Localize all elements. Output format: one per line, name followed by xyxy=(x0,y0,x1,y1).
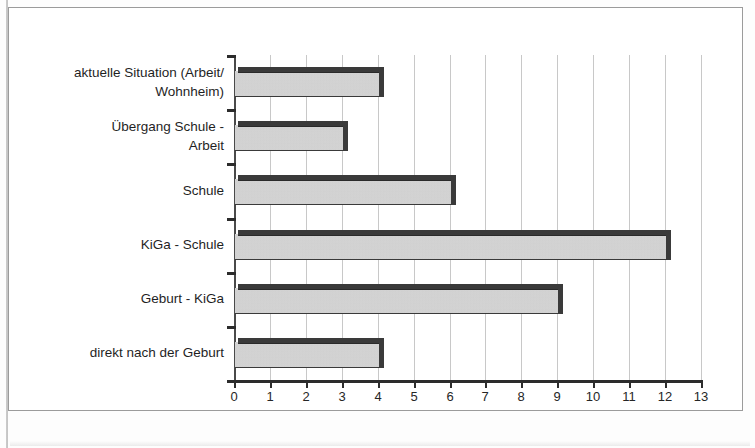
x-axis-tick-3 xyxy=(342,380,344,388)
gridline-x-7 xyxy=(485,55,486,380)
category-label-line: Wohnheim) xyxy=(2,82,224,101)
x-axis-tick-8 xyxy=(521,380,523,388)
category-label-4: Geburt - KiGa xyxy=(2,289,224,308)
gridline-x-8 xyxy=(521,55,522,380)
y-axis-tick xyxy=(227,272,236,275)
bar-right-face xyxy=(451,175,456,205)
x-axis-line xyxy=(233,380,703,383)
bar-0 xyxy=(235,71,379,97)
bar-right-face xyxy=(379,67,384,97)
x-axis-tick-7 xyxy=(485,380,487,388)
x-axis-tick-13 xyxy=(701,380,703,388)
category-label-5: direkt nach der Geburt xyxy=(2,343,224,362)
horizontal-bar-chart: 012345678910111213aktuelle Situation (Ar… xyxy=(9,8,744,412)
x-axis-tick-label: 1 xyxy=(256,389,284,404)
x-axis-tick-4 xyxy=(378,380,380,388)
x-axis-tick-9 xyxy=(557,380,559,388)
bar-top-face xyxy=(238,284,561,290)
bar-4 xyxy=(235,288,558,314)
y-axis-tick xyxy=(227,109,236,112)
x-axis-tick-label: 6 xyxy=(436,389,464,404)
bar-top-face xyxy=(238,67,382,73)
bar-right-face xyxy=(343,121,348,151)
gridline-x-4 xyxy=(378,55,379,380)
x-axis-tick-5 xyxy=(414,380,416,388)
x-axis-tick-label: 0 xyxy=(220,389,248,404)
x-axis-tick-12 xyxy=(665,380,667,388)
category-label-3: KiGa - Schule xyxy=(2,235,224,254)
gridline-x-11 xyxy=(629,55,630,380)
bar-3 xyxy=(235,234,666,260)
x-axis-tick-label: 2 xyxy=(292,389,320,404)
y-axis-tick xyxy=(227,326,236,329)
category-label-line: Übergang Schule - xyxy=(2,117,224,136)
x-axis-tick-label: 4 xyxy=(364,389,392,404)
bar-right-face xyxy=(666,230,671,260)
x-axis-tick-11 xyxy=(629,380,631,388)
y-axis-tick xyxy=(227,55,236,58)
bar-5 xyxy=(235,342,379,368)
bar-1 xyxy=(235,125,343,151)
bar-2 xyxy=(235,179,451,205)
bar-group xyxy=(235,230,671,260)
gridline-x-6 xyxy=(450,55,451,380)
bar-group xyxy=(235,338,384,368)
category-label-line: Arbeit xyxy=(2,136,224,155)
category-label-line: direkt nach der Geburt xyxy=(2,343,224,362)
x-axis-tick-label: 8 xyxy=(507,389,535,404)
x-axis-tick-6 xyxy=(450,380,452,388)
gridline-x-13 xyxy=(701,55,702,380)
category-label-line: aktuelle Situation (Arbeit/ xyxy=(2,63,224,82)
x-axis-tick-label: 3 xyxy=(328,389,356,404)
category-label-1: Übergang Schule -Arbeit xyxy=(2,117,224,155)
x-axis-tick-label: 13 xyxy=(687,389,715,404)
gridline-x-5 xyxy=(414,55,415,380)
category-label-line: KiGa - Schule xyxy=(2,235,224,254)
x-axis-tick-10 xyxy=(593,380,595,388)
gridline-x-2 xyxy=(306,55,307,380)
scanned-page: 012345678910111213aktuelle Situation (Ar… xyxy=(0,0,755,448)
category-label-0: aktuelle Situation (Arbeit/Wohnheim) xyxy=(2,63,224,101)
x-axis-tick-label: 9 xyxy=(543,389,571,404)
bar-top-face xyxy=(238,338,382,344)
y-axis-tick xyxy=(227,163,236,166)
gridline-x-12 xyxy=(665,55,666,380)
bar-top-face xyxy=(238,121,346,127)
plot-area xyxy=(234,55,701,380)
category-label-line: Schule xyxy=(2,181,224,200)
gridline-x-1 xyxy=(270,55,271,380)
x-axis-tick-label: 5 xyxy=(400,389,428,404)
y-axis-tick xyxy=(227,218,236,221)
x-axis-tick-label: 11 xyxy=(615,389,643,404)
bar-group xyxy=(235,284,563,314)
bar-top-face xyxy=(238,230,669,236)
category-label-line: Geburt - KiGa xyxy=(2,289,224,308)
gridline-x-9 xyxy=(557,55,558,380)
bar-top-face xyxy=(238,175,454,181)
x-axis-tick-label: 7 xyxy=(471,389,499,404)
x-axis-tick-label: 10 xyxy=(579,389,607,404)
x-axis-tick-2 xyxy=(306,380,308,388)
x-axis-tick-label: 12 xyxy=(651,389,679,404)
bar-right-face xyxy=(558,284,563,314)
scan-bottom-artifact xyxy=(10,441,750,446)
gridline-x-10 xyxy=(593,55,594,380)
bar-right-face xyxy=(379,338,384,368)
chart-figure-frame: 012345678910111213aktuelle Situation (Ar… xyxy=(8,7,743,411)
y-axis-tick xyxy=(227,380,236,383)
bar-group xyxy=(235,121,348,151)
bar-group xyxy=(235,175,456,205)
gridline-x-3 xyxy=(342,55,343,380)
x-axis-tick-1 xyxy=(270,380,272,388)
category-label-2: Schule xyxy=(2,181,224,200)
bar-group xyxy=(235,67,384,97)
